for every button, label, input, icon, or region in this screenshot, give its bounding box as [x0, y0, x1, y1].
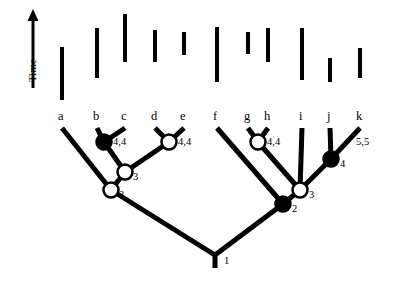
time-axis-label: Time [26, 59, 38, 82]
taxon-label-d: d [151, 110, 157, 123]
node-3-right [293, 183, 308, 198]
node-4-gh [251, 135, 266, 150]
node-label-2-right: 2 [292, 204, 297, 215]
taxon-label-g: g [244, 110, 250, 123]
taxon-label-f: f [213, 110, 217, 123]
node-label-4-jk: 4 [340, 159, 345, 170]
taxon-label-e: e [180, 110, 186, 123]
node-label-5-5: 5,5 [356, 137, 369, 148]
taxon-label-j: j [327, 110, 330, 123]
node-label-3-left: 3 [133, 172, 138, 183]
node-2-right [276, 197, 291, 212]
node-4-jk [324, 152, 339, 167]
tree-diagram [0, 0, 396, 299]
taxon-label-c: c [121, 110, 127, 123]
node-label-4-de: 4,4 [178, 137, 191, 148]
taxon-label-h: h [264, 110, 270, 123]
node-label-4-gh: 4,4 [267, 137, 280, 148]
node-3-left [118, 165, 133, 180]
node-label-4-bc: 4,4 [113, 137, 126, 148]
taxon-label-a: a [58, 110, 64, 123]
node-label-1: 1 [224, 256, 229, 267]
scale-bars [62, 14, 360, 100]
taxon-label-b: b [93, 110, 99, 123]
node-4-de [162, 135, 177, 150]
node-4-bc [97, 135, 112, 150]
node-2-left [104, 183, 119, 198]
node-label-2-left: 2 [119, 190, 124, 201]
taxon-label-k: k [356, 110, 362, 123]
taxon-label-i: i [299, 110, 302, 123]
phylogeny-figure: Time a b c d e f g h i j k 1 2 3 4,4 4,4… [0, 0, 396, 299]
node-label-3-right: 3 [309, 190, 314, 201]
